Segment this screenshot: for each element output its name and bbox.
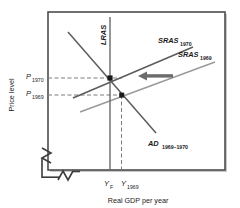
curve-label-sras-1969-sub: 1969 [200,55,212,61]
output-tick-y-1969-sub: 1969 [127,184,139,190]
curve-label-sras-1970-text: SRAS [158,36,179,45]
arrow-shaft [144,74,173,77]
curve-label-lras: LRAS [99,25,108,45]
curve-label-ad-sub: 1969–1970 [162,144,188,150]
aggregate-supply-demand-figure: LRAS SRAS 1970 SRAS 1969 AD 1969–1970 P … [0,0,240,208]
curve-label-ad-text: AD [147,139,159,148]
output-tick-y-f-sub: F [110,184,113,190]
price-tick-p-1970-text: P [26,72,31,81]
price-tick-p-1970: P 1970 [26,72,44,83]
curve-label-sras-1969-text: SRAS [178,50,199,59]
equilibrium-point-1969 [119,93,124,98]
axis-break-x-icon [58,171,73,180]
figure-svg: LRAS SRAS 1970 SRAS 1969 AD 1969–1970 P … [0,0,240,208]
price-tick-p-1969: P 1969 [26,89,44,100]
output-tick-y-f: Y F [104,179,113,190]
price-tick-p-1969-text: P [26,89,31,98]
price-tick-p-1970-sub: 1970 [32,77,44,83]
equilibrium-point-1970 [107,75,112,80]
x-axis-title: Real GDP per year [108,196,169,205]
output-tick-y-1969: Y 1969 [121,179,139,190]
y-axis-title: Price level [7,78,16,112]
curve-label-sras-1970-sub: 1970 [180,41,192,47]
price-tick-p-1969-sub: 1969 [32,94,44,100]
